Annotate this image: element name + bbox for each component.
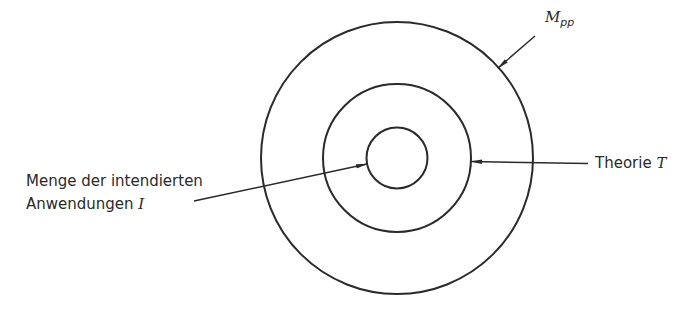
diagram-canvas: Mpp Theorie T Menge der intendierten Anw… [0,0,698,318]
middle-circle-theorie [323,84,471,232]
anwendungen-arrow [194,164,367,201]
nested-circles-diagram [0,0,698,318]
anwendungen-label: Menge der intendierten Anwendungen I [26,170,203,216]
theorie-arrow [471,162,588,164]
theorie-label-text: Theorie [595,154,656,172]
anwendungen-label-line2: Anwendungen I [26,193,203,216]
anwendungen-label-line2-text: Anwendungen [26,195,138,213]
anwendungen-label-line1: Menge der intendierten [26,170,203,193]
inner-circle-anwendungen [367,128,428,189]
theorie-label-symbol: T [656,154,666,172]
outer-circle-mpp [261,22,533,294]
anwendungen-label-symbol: I [138,195,144,213]
theorie-label: Theorie T [595,152,666,175]
mpp-arrow [498,36,535,68]
mpp-label-main: M [545,8,560,26]
mpp-label: Mpp [545,6,574,30]
mpp-label-sub: pp [560,16,574,29]
